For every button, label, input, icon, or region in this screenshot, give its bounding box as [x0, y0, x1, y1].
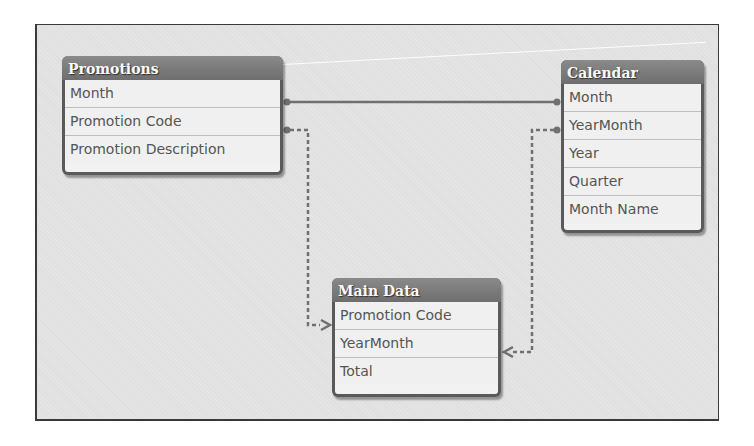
- arrow-right-icon: [321, 320, 330, 330]
- field-promotion-code[interactable]: Promotion Code: [65, 108, 280, 136]
- link-endpoint-icon: [284, 127, 291, 134]
- table-calendar[interactable]: Calendar Month YearMonth Year Quarter Mo…: [561, 60, 704, 233]
- field-month[interactable]: Month: [564, 84, 701, 112]
- field-month[interactable]: Month: [65, 80, 280, 108]
- field-month-name[interactable]: Month Name: [564, 196, 701, 223]
- table-promotions[interactable]: Promotions Month Promotion Code Promotio…: [62, 56, 283, 175]
- link-endpoint-icon: [554, 99, 561, 106]
- field-quarter[interactable]: Quarter: [564, 168, 701, 196]
- table-title: Promotions: [62, 56, 283, 80]
- table-main-data[interactable]: Main Data Promotion Code YearMonth Total: [332, 278, 501, 397]
- link-endpoint-icon: [554, 127, 561, 134]
- field-promotion-description[interactable]: Promotion Description: [65, 136, 280, 163]
- link-promotion-code: [290, 130, 320, 325]
- link-yearmonth: [512, 130, 554, 352]
- field-year[interactable]: Year: [564, 140, 701, 168]
- field-yearmonth[interactable]: YearMonth: [335, 330, 498, 358]
- link-endpoint-icon: [284, 99, 291, 106]
- arrow-left-icon: [504, 347, 513, 357]
- field-promotion-code[interactable]: Promotion Code: [335, 302, 498, 330]
- table-title: Calendar: [561, 60, 704, 84]
- field-total[interactable]: Total: [335, 358, 498, 385]
- field-yearmonth[interactable]: YearMonth: [564, 112, 701, 140]
- table-title: Main Data: [332, 278, 501, 302]
